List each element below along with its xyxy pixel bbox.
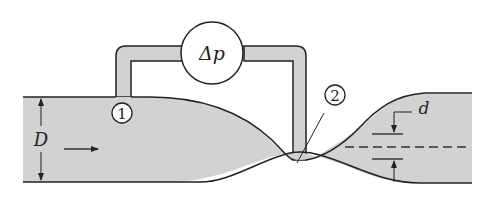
gauge-label: Δp <box>198 42 225 64</box>
differential-pressure-gauge: Δp <box>181 22 243 84</box>
station-1-marker: 1 <box>112 103 132 123</box>
station-1-label: 1 <box>117 105 127 123</box>
venturi-meter-diagram: Δp 1 2 D d <box>0 0 490 216</box>
throat-diameter-label: d <box>419 98 430 118</box>
station-2-label: 2 <box>330 87 340 105</box>
pipe-diameter-label: D <box>33 129 49 150</box>
